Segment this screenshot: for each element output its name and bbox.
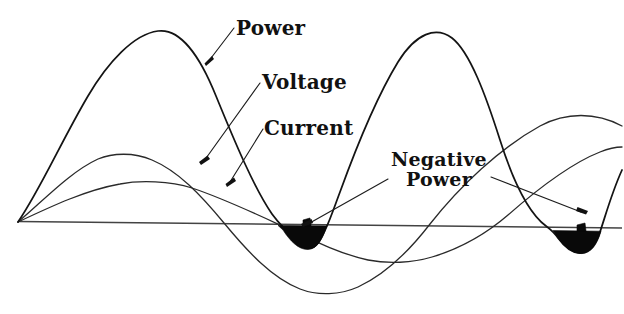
ac-power-waveform-figure: Power Voltage Current NegativePower: [0, 0, 624, 314]
power-waveform-curve: [18, 31, 622, 253]
current-leader-line: [230, 129, 263, 182]
negative-power-label-line1: Negative: [391, 148, 487, 170]
voltage-leader-arrowhead: [199, 156, 210, 166]
voltage-leader-line: [204, 83, 260, 161]
power-leader-arrowhead: [205, 56, 215, 66]
negative-power-leader-line-right: [491, 177, 581, 212]
waveform-plot-area: [0, 0, 624, 314]
current-waveform-curve: [18, 147, 622, 262]
power-label: Power: [236, 18, 305, 39]
power-crossing-marker-second: [577, 223, 586, 231]
negative-power-leader-arrowhead-right: [576, 207, 588, 215]
negative-power-lobe-first: [278, 225, 327, 249]
negative-power-leader-line-left: [308, 179, 388, 224]
voltage-waveform-curve: [18, 116, 622, 294]
current-label: Current: [264, 118, 353, 139]
voltage-label: Voltage: [262, 72, 347, 93]
current-leader-arrowhead: [226, 178, 237, 188]
negative-power-label: NegativePower: [391, 150, 487, 190]
negative-power-label-line2: Power: [391, 170, 487, 190]
